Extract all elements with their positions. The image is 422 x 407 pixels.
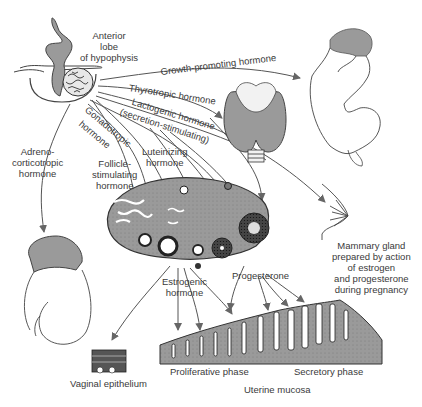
label-line: hormone	[92, 180, 137, 191]
label-line: of estrogen	[332, 262, 411, 273]
anterior-lobe-label: Anterior lobe of hypophysis	[80, 30, 138, 63]
label-line: Mammary gland	[332, 240, 411, 251]
label-line: hormone	[12, 168, 63, 179]
fsh-label: Follicle- stimulating hormone	[92, 158, 137, 191]
estrogenic-hormone-label: Estrogenic hormone	[162, 276, 207, 298]
label-line: during pregnancy	[332, 284, 411, 295]
infant-illustration	[310, 29, 380, 166]
vaginal-epithelium-illustration	[92, 350, 126, 373]
label-line: of hypophysis	[80, 52, 138, 63]
label-line: prepared by action	[332, 251, 411, 262]
label-line: hormone	[162, 287, 207, 298]
progesterone-label: Progesterone	[232, 270, 289, 281]
secretory-phase-label: Secretory phase	[294, 366, 363, 377]
uterine-mucosa-label: Uterine mucosa	[244, 384, 311, 395]
label-line: Anterior	[80, 30, 138, 41]
mammary-gland-illustration	[322, 184, 348, 240]
label-line: lobe	[80, 41, 138, 52]
label-line: Follicle-	[92, 158, 137, 169]
vaginal-epithelium-label: Vaginal epithelium	[70, 378, 147, 389]
label-line: hormone	[142, 157, 187, 168]
lh-label: Luteinizing hormone	[142, 146, 187, 168]
uterine-mucosa-illustration	[160, 300, 382, 364]
ovary-illustration	[107, 178, 269, 269]
thyroid-illustration	[224, 83, 286, 162]
label-line: Adreno-	[12, 146, 63, 157]
endocrine-diagram: Anterior lobe of hypophysis Growth-promo…	[0, 0, 422, 407]
proliferative-phase-label: Proliferative phase	[170, 366, 249, 377]
label-line: and progesterone	[332, 273, 411, 284]
acth-label: Adreno- corticotropic hormone	[12, 146, 63, 179]
label-line: corticotropic	[12, 157, 63, 168]
adrenal-kidney-illustration	[24, 236, 91, 344]
label-line: stimulating	[92, 169, 137, 180]
label-line: Luteinizing	[142, 146, 187, 157]
label-line: Estrogenic	[162, 276, 207, 287]
mammary-gland-label: Mammary gland prepared by action of estr…	[332, 240, 411, 295]
